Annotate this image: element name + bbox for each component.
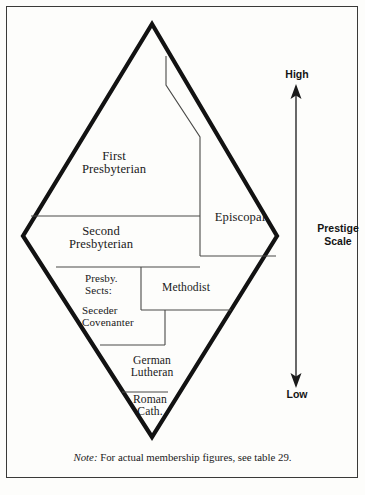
label-presbyterian-sects: Presby. Sects:	[85, 273, 139, 296]
scale-high-label: High	[282, 68, 312, 81]
label-line-2: Presbyterian	[49, 238, 153, 251]
scale-title-line-2: Scale	[316, 235, 360, 248]
label-episcopal: Episcopal	[206, 211, 274, 224]
label-first-presbyterian: First Presbyterian	[68, 150, 160, 177]
label-line-1: Second	[49, 225, 153, 238]
label-line-2: Covenanter	[82, 317, 164, 329]
label-line-1: Presby.	[85, 273, 139, 285]
prestige-scale-title: Prestige Scale	[316, 222, 360, 248]
label-line-2: Sects:	[85, 285, 139, 297]
label-seceder-covenanter: Seceder Covenanter	[82, 305, 164, 328]
note-prefix: Note:	[74, 451, 98, 463]
scale-low-label: Low	[283, 388, 311, 401]
scale-title-line-1: Prestige	[316, 222, 360, 235]
label-line-2: Cath.	[112, 406, 188, 418]
label-roman-catholic: Roman Cath.	[112, 394, 188, 419]
note-text: For actual membership figures, see table…	[98, 451, 292, 463]
label-line-1: Seceder	[82, 305, 164, 317]
label-line-2: Presbyterian	[68, 163, 160, 176]
label-second-presbyterian: Second Presbyterian	[49, 225, 153, 252]
label-line-1: Episcopal	[206, 211, 274, 224]
episcopal-left-boundary	[166, 56, 200, 256]
label-line-1: First	[68, 150, 160, 163]
label-line-1: Methodist	[150, 282, 222, 294]
figure-page: First Presbyterian Episcopal Second Pres…	[0, 0, 365, 495]
label-methodist: Methodist	[150, 282, 222, 294]
label-line-2: Lutheran	[106, 367, 198, 379]
label-german-lutheran: German Lutheran	[106, 355, 198, 380]
figure-note: Note: For actual membership figures, see…	[74, 451, 292, 463]
